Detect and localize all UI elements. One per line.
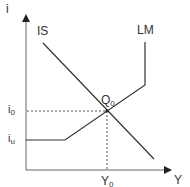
is-curve — [43, 43, 154, 159]
is-label: IS — [37, 24, 48, 38]
x-axis-label: Y — [174, 173, 182, 187]
lm-label: LM — [137, 23, 154, 37]
lm-curve — [26, 42, 145, 140]
y-axis-label: i — [6, 2, 9, 16]
q0-label: Q0 — [101, 93, 115, 108]
i0-label: i0 — [8, 103, 15, 117]
y0-label: Y0 — [101, 174, 114, 187]
equilibrium-point — [105, 109, 108, 112]
is-lm-diagram: i Y IS LM Q0 i0 iu Y0 — [0, 0, 190, 187]
iu-label: iu — [8, 132, 15, 146]
